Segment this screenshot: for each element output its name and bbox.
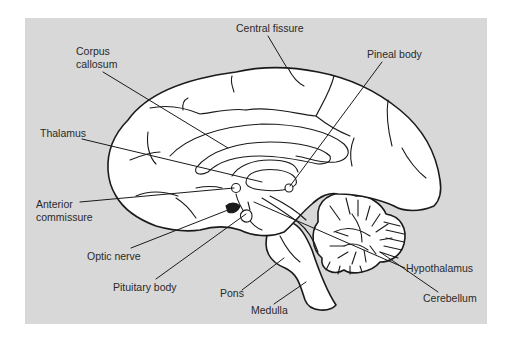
leader-central-fissure bbox=[268, 36, 287, 68]
label-anterior-commissure: Anterior commissure bbox=[36, 198, 93, 223]
pineal-body-shape bbox=[285, 184, 293, 192]
pituitary-shape bbox=[241, 210, 253, 222]
label-corpus-callosum-line1: Corpus bbox=[76, 45, 117, 58]
label-optic-nerve: Optic nerve bbox=[87, 250, 141, 263]
leader-medulla bbox=[274, 282, 306, 304]
label-corpus-callosum-line2: callosum bbox=[76, 58, 117, 71]
label-anterior-commissure-line1: Anterior bbox=[36, 198, 93, 211]
label-pituitary-body: Pituitary body bbox=[113, 281, 177, 294]
label-anterior-commissure-line2: commissure bbox=[36, 211, 93, 224]
label-corpus-callosum: Corpus callosum bbox=[76, 45, 117, 70]
label-thalamus: Thalamus bbox=[40, 127, 86, 140]
label-cerebellum: Cerebellum bbox=[423, 292, 477, 305]
label-hypothalamus: Hypothalamus bbox=[406, 262, 473, 275]
leader-pons bbox=[242, 258, 284, 290]
label-medulla: Medulla bbox=[251, 304, 288, 317]
label-central-fissure: Central fissure bbox=[236, 22, 304, 35]
label-pineal-body: Pineal body bbox=[367, 48, 422, 61]
label-pons: Pons bbox=[220, 287, 244, 300]
